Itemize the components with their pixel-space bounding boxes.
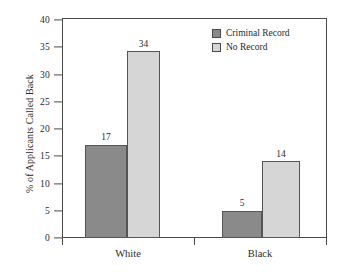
legend-item-label: Criminal Record	[226, 29, 290, 39]
bar-value-white-criminal-record: 17	[101, 132, 111, 142]
y-tick-label: 0	[45, 233, 50, 243]
y-tick-mark	[54, 74, 62, 75]
y-tick-mark	[54, 101, 62, 102]
y-tick-mark	[54, 183, 62, 184]
bar-black-no-record[interactable]	[262, 161, 300, 238]
y-axis-title: % of Applicants Called Back	[24, 39, 35, 229]
x-axis-label-black: Black	[248, 248, 273, 259]
y-tick-label: 40	[40, 15, 50, 25]
y-tick-mark	[54, 210, 62, 211]
legend-item-criminal-record[interactable]: Criminal Record	[212, 29, 290, 39]
y-tick-label: 10	[40, 179, 50, 189]
x-axis-tick-separator	[194, 238, 195, 245]
legend-swatch-icon	[212, 43, 221, 52]
y-tick-label: 15	[40, 151, 50, 161]
y-tick-mark	[54, 156, 62, 157]
bar-chart: 40 35 30 25 20 15 10 5 0 % of Applicants…	[0, 0, 342, 272]
x-axis-label-white: White	[115, 248, 141, 259]
bar-black-criminal-record[interactable]	[222, 211, 262, 239]
x-axis-tick-right	[326, 238, 327, 245]
bar-white-criminal-record[interactable]	[85, 145, 127, 239]
legend: Criminal Record No Record	[212, 29, 290, 52]
y-tick-mark	[54, 237, 62, 238]
bar-value-black-criminal-record: 5	[240, 198, 245, 208]
y-tick-label: 30	[40, 70, 50, 80]
y-tick-label: 5	[45, 206, 50, 216]
bar-value-white-no-record: 34	[139, 39, 149, 49]
bar-value-black-no-record: 14	[276, 149, 286, 159]
legend-swatch-icon	[212, 29, 221, 38]
y-tick-label: 20	[40, 124, 50, 134]
y-tick-mark	[54, 128, 62, 129]
legend-item-label: No Record	[226, 43, 267, 53]
y-tick-label: 35	[40, 42, 50, 52]
y-tick-mark	[54, 19, 62, 20]
y-tick-mark	[54, 47, 62, 48]
x-axis-tick-left	[62, 238, 63, 245]
y-tick-label: 25	[40, 97, 50, 107]
bar-white-no-record[interactable]	[127, 51, 160, 238]
legend-item-no-record[interactable]: No Record	[212, 43, 290, 53]
